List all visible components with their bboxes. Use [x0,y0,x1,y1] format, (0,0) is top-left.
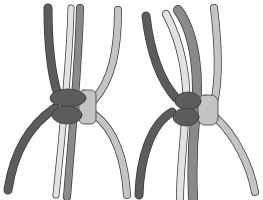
right-knot-dark-lower [173,108,199,126]
left-knot-dark-lower [52,106,82,124]
right-knot-dark-upper [175,92,201,110]
left-working-cord-dark-bottom [8,108,55,190]
left-knot-dark-upper [50,89,86,107]
right-knot-panel [139,8,255,198]
knot-illustration [0,0,263,200]
left-knot-panel [8,8,127,197]
knot-diagram-svg [0,0,263,200]
